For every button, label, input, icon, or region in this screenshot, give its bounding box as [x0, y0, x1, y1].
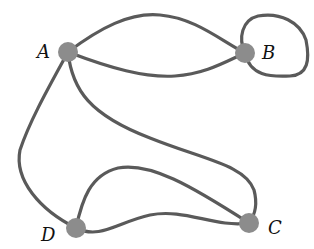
- edge-a-b-lower: [68, 52, 245, 76]
- edge-d-c-lower: [76, 213, 249, 232]
- edge-a-b-upper: [68, 15, 245, 53]
- node-label-d: D: [40, 224, 56, 245]
- graph-diagram: A B C D: [0, 0, 314, 249]
- node-label-b: B: [261, 42, 275, 63]
- edge-a-d: [19, 52, 76, 228]
- node-d: [66, 218, 86, 238]
- node-label-a: A: [35, 41, 50, 62]
- node-c: [239, 213, 259, 233]
- node-label-c: C: [268, 217, 282, 238]
- node-a: [58, 42, 78, 62]
- node-b: [235, 43, 255, 63]
- edge-d-c-upper: [76, 167, 249, 228]
